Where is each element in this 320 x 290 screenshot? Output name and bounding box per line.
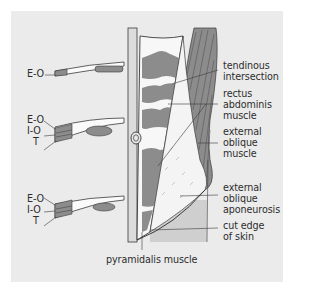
- label-internal-oblique: I-O: [27, 125, 44, 136]
- label-external-oblique: E-O: [27, 114, 44, 125]
- label-external-oblique-upper: E-O: [27, 68, 44, 79]
- label-cut-edge-of-skin: cut edge of skin: [223, 220, 264, 242]
- cross-section-upper: [45, 62, 124, 76]
- label-external-oblique-muscle: external oblique muscle: [223, 126, 262, 159]
- label-group-middle: E-O I-O T: [27, 114, 44, 147]
- cross-section-lower: [44, 196, 124, 226]
- label-rectus-abdominis: rectus abdominis muscle: [223, 88, 272, 121]
- umbilicus: [131, 132, 141, 144]
- label-internal-oblique: I-O: [27, 204, 44, 215]
- label-group-lower: E-O I-O T: [27, 193, 44, 226]
- label-pyramidalis-muscle: pyramidalis muscle: [106, 254, 197, 265]
- label-transversus: T: [27, 136, 44, 147]
- label-transversus: T: [27, 215, 44, 226]
- label-external-oblique: E-O: [27, 193, 44, 204]
- cross-section-middle: [44, 118, 124, 150]
- label-tendinous-intersection: tendinous intersection: [223, 60, 279, 82]
- label-external-oblique-aponeurosis: external oblique aponeurosis: [223, 182, 280, 215]
